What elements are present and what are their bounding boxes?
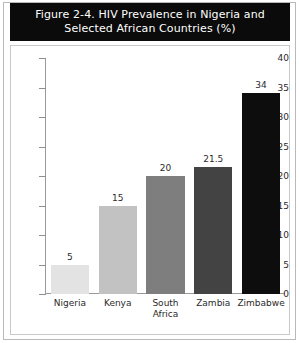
plot-inner: 0510152025303540 5152021.534 NigeriaKeny… xyxy=(11,46,289,334)
x-axis-category-label: Kenya xyxy=(94,298,142,309)
bar-value-label: 15 xyxy=(99,193,137,203)
y-axis-tick xyxy=(39,88,46,89)
x-axis-category-label-line: Africa xyxy=(142,309,190,320)
y-axis-tick xyxy=(39,58,46,59)
x-axis-category-label: SouthAfrica xyxy=(142,298,190,321)
y-axis-tick xyxy=(39,294,46,295)
bar-slot: 20 xyxy=(146,58,184,294)
plot-area: 0510152025303540 5152021.534 NigeriaKeny… xyxy=(10,45,290,335)
bar xyxy=(146,176,184,294)
bar-slot: 34 xyxy=(242,58,280,294)
x-axis-category-label-line: Kenya xyxy=(94,298,142,309)
bar xyxy=(99,206,137,295)
bar-value-label: 5 xyxy=(51,252,89,262)
bar-slot: 5 xyxy=(51,58,89,294)
x-axis-category-label: Nigeria xyxy=(46,298,94,309)
x-axis-category-label-line: Zimbabwe xyxy=(237,298,285,309)
figure-title-banner: Figure 2-4. HIV Prevalence in Nigeria an… xyxy=(10,3,290,41)
x-axis-category-labels: NigeriaKenyaSouthAfricaZambiaZimbabwe xyxy=(46,298,285,334)
bar xyxy=(242,93,280,294)
bar-series: 5152021.534 xyxy=(46,58,285,294)
bar-slot: 15 xyxy=(99,58,137,294)
x-axis-category-label-line: Zambia xyxy=(189,298,237,309)
y-axis-tick xyxy=(39,147,46,148)
bar-value-label: 21.5 xyxy=(194,154,232,164)
x-axis-category-label: Zimbabwe xyxy=(237,298,285,309)
x-axis-category-label-line: Nigeria xyxy=(46,298,94,309)
y-axis-tick xyxy=(39,265,46,266)
x-axis-category-label-line: South xyxy=(142,298,190,309)
bar xyxy=(51,265,89,295)
figure-title-line-1: Figure 2-4. HIV Prevalence in Nigeria an… xyxy=(35,8,265,22)
bar-slot: 21.5 xyxy=(194,58,232,294)
bar-value-label: 34 xyxy=(242,80,280,90)
bar xyxy=(194,167,232,294)
y-axis-tick xyxy=(39,176,46,177)
x-axis-category-label: Zambia xyxy=(189,298,237,309)
bar-value-label: 20 xyxy=(146,163,184,173)
y-axis-tick xyxy=(39,235,46,236)
y-axis-tick xyxy=(39,206,46,207)
figure-container: Figure 2-4. HIV Prevalence in Nigeria an… xyxy=(0,0,299,343)
figure-title-line-2: Selected African Countries (%) xyxy=(64,22,235,36)
y-axis-tick xyxy=(39,117,46,118)
